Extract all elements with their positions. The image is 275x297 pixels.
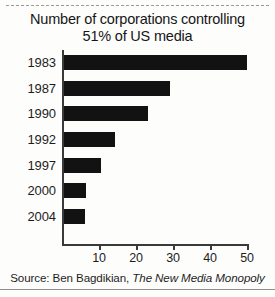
- bar-2004: [64, 209, 85, 224]
- source-prefix: Source: Ben Bagdikian,: [10, 271, 129, 284]
- category-label-1987: 1987: [0, 81, 56, 96]
- bar-1990: [64, 106, 148, 121]
- x-tick-label-20: 20: [129, 251, 143, 265]
- chart-title-line-1: Number of corporations controlling: [10, 11, 265, 28]
- bar-rows: 1983 1987 1990 1992 1997 2000: [0, 50, 275, 229]
- bar-row: 2004: [0, 204, 275, 230]
- bar-row: 1992: [0, 127, 275, 153]
- source-work-title: The New Media Monopoly: [132, 271, 264, 284]
- x-tick-label-10: 10: [92, 251, 106, 265]
- category-label-1990: 1990: [0, 106, 56, 121]
- x-tick-label-40: 40: [203, 251, 217, 265]
- bar-1983: [64, 55, 247, 70]
- bar-row: 1983: [0, 50, 275, 76]
- bar-1992: [64, 132, 115, 147]
- plot-area: 1983 1987 1990 1992 1997 2000: [0, 50, 275, 250]
- bar-row: 1997: [0, 152, 275, 178]
- x-tick-mark-10: [99, 244, 101, 250]
- source-note: Source: Ben Bagdikian, The New Media Mon…: [0, 271, 275, 284]
- x-tick-mark-40: [210, 244, 212, 250]
- x-tick-mark-20: [136, 244, 138, 250]
- x-tick-mark-50: [247, 244, 249, 250]
- bar-1997: [64, 158, 101, 173]
- bar-1987: [64, 81, 170, 96]
- category-label-2004: 2004: [0, 209, 56, 224]
- bar-2000: [64, 183, 86, 198]
- chart-title-line-2: 51% of US media: [10, 28, 265, 45]
- bottom-divider: [0, 289, 275, 290]
- x-tick-label-50: 50: [240, 251, 254, 265]
- category-label-2000: 2000: [0, 183, 56, 198]
- category-label-1992: 1992: [0, 132, 56, 147]
- bar-row: 1990: [0, 101, 275, 127]
- chart-title: Number of corporations controlling 51% o…: [10, 11, 265, 45]
- chart-figure: Number of corporations controlling 51% o…: [0, 0, 275, 297]
- x-axis-ticks: 10 20 30 40 50: [0, 244, 275, 274]
- x-tick-mark-30: [173, 244, 175, 250]
- x-tick-label-30: 30: [166, 251, 180, 265]
- y-axis-line: [62, 50, 64, 245]
- bar-row: 1987: [0, 76, 275, 102]
- bar-row: 2000: [0, 178, 275, 204]
- category-label-1983: 1983: [0, 55, 56, 70]
- category-label-1997: 1997: [0, 158, 56, 173]
- top-divider: [6, 5, 269, 6]
